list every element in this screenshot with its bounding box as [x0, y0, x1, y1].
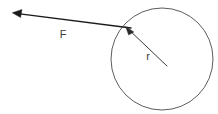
radius-label: r — [146, 50, 150, 62]
diagram-background — [0, 0, 218, 114]
force-label: F — [60, 28, 67, 40]
diagram-canvas: F r — [0, 0, 218, 114]
diagram-svg: F r — [0, 0, 218, 114]
